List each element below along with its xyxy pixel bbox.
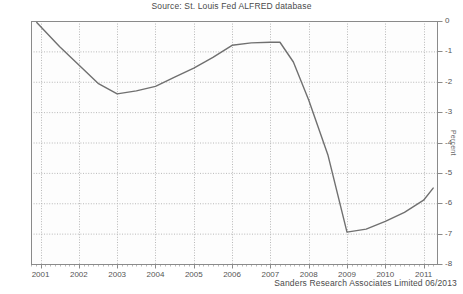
y-tick-label: -8: [445, 259, 452, 268]
y-tick-label: -3: [445, 107, 452, 116]
y-tick-label: -6: [445, 198, 452, 207]
x-tick-label: 2005: [179, 270, 209, 279]
y-axis-label: Percent: [447, 130, 459, 170]
y-tick-label: 0: [445, 16, 449, 25]
y-tick-label: -1: [445, 46, 452, 55]
y-tick-label: -7: [445, 229, 452, 238]
x-tick-label: 2003: [102, 270, 132, 279]
chart-figure: Source: St. Louis Fed ALFRED database 20…: [0, 0, 463, 294]
x-tick-label: 2002: [64, 270, 94, 279]
x-tick-label: 2001: [26, 270, 56, 279]
x-tick-label: 2004: [140, 270, 170, 279]
y-axis-label-text: Percent: [450, 130, 457, 156]
chart-footer: Sanders Research Associates Limited 06/2…: [274, 278, 457, 288]
y-tick-label: -2: [445, 77, 452, 86]
x-tick-label: 2006: [217, 270, 247, 279]
chart-plot-svg: [0, 0, 463, 294]
